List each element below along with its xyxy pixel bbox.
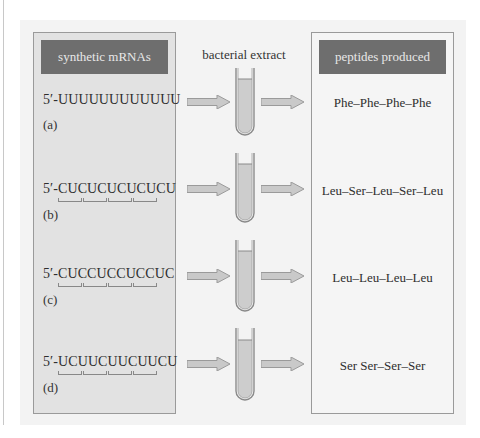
mrna-sequence-b: 5′-CUCUCUCUCUCU — [43, 181, 176, 197]
arrow-right-icon — [187, 95, 231, 109]
peptide-a: Phe–Phe–Phe–Phe — [311, 95, 454, 111]
peptides-produced-header: peptides produced — [319, 40, 446, 74]
peptide-c: Leu–Leu–Leu–Leu — [311, 270, 454, 286]
row-label-d: (d) — [43, 380, 58, 396]
peptide-d: Ser Ser–Ser–Ser — [311, 358, 454, 374]
arrow-right-icon — [187, 182, 231, 196]
test-tube-icon — [235, 328, 255, 401]
arrow-right-icon — [261, 95, 305, 109]
mrna-sequence-c: 5′-CUCCUCCUCCUC — [43, 266, 174, 282]
row-label-b: (b) — [43, 207, 58, 223]
peptide-b: Leu–Ser–Leu–Ser–Leu — [311, 183, 454, 199]
mrna-sequence-a: 5′-UUUUUUUUUUUU — [43, 92, 181, 108]
arrow-right-icon — [187, 357, 231, 371]
arrow-right-icon — [261, 357, 305, 371]
test-tube-icon — [235, 240, 255, 312]
arrow-right-icon — [261, 182, 305, 196]
arrow-right-icon — [261, 269, 305, 283]
row-label-c: (c) — [43, 292, 57, 308]
synthetic-mrnas-header: synthetic mRNAs — [41, 40, 168, 74]
row-label-a: (a) — [43, 117, 57, 133]
bacterial-extract-label: bacterial extract — [190, 47, 298, 63]
page-edge-line — [3, 0, 4, 425]
mrna-sequence-d: 5′-UCUUCUUCUUCU — [43, 354, 177, 370]
peptides-produced-column: peptides produced — [311, 32, 454, 414]
arrow-right-icon — [187, 269, 231, 283]
test-tube-icon — [235, 153, 255, 223]
test-tube-icon — [235, 68, 255, 136]
